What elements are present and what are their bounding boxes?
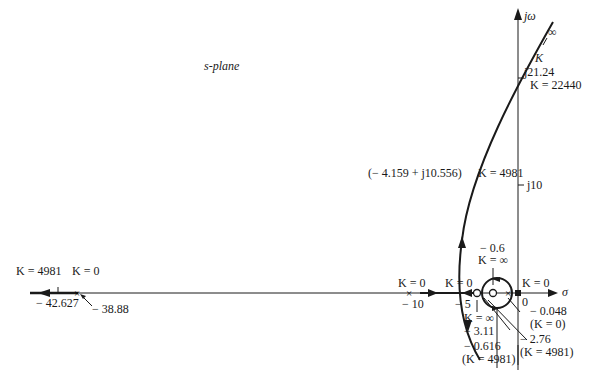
infinity-label: ∞ <box>548 26 557 39</box>
pole-5-label: − 5 <box>455 298 471 311</box>
root-locus-plot: × × × × <box>0 0 599 384</box>
imag-axis-label: jω <box>524 10 536 23</box>
point-276-k-label: (K = 4981) <box>520 346 573 359</box>
origin-label: 0 <box>522 296 528 309</box>
pole-5-k-label: K = 0 <box>445 277 472 290</box>
pole-10-k-label: K = 0 <box>398 277 425 290</box>
plane-label: s-plane <box>204 60 239 73</box>
crossing-k-label: K = 22440 <box>530 79 581 92</box>
point-0616-k-label: (K = 4981) <box>462 353 515 366</box>
complex-point-label: (− 4.159 + j10.556) <box>368 167 462 180</box>
j10-label: j10 <box>527 179 542 192</box>
zero-06-k-label: K = ∞ <box>478 254 508 267</box>
complex-point-k-label: K = 4981 <box>478 167 523 180</box>
k-label-top: K <box>535 52 543 65</box>
far-left-k0: K = 0 <box>72 265 99 278</box>
real-axis-label: σ <box>562 286 568 299</box>
breakaway-label: − 42.627 <box>36 297 79 310</box>
origin-k-label: K = 0 <box>522 277 549 290</box>
pole-3888-label: − 38.88 <box>92 303 129 316</box>
pole-0048-k-label: (K = 0) <box>530 318 565 331</box>
svg-text:×: × <box>505 287 511 299</box>
pole-10-label: − 10 <box>402 298 424 311</box>
far-left-k4981: K = 4981 <box>16 265 61 278</box>
zero-311-label: − 3.11 <box>464 325 494 338</box>
